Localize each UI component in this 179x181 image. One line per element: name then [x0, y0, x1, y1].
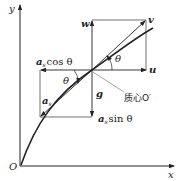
x-axis-label: x — [168, 169, 174, 180]
as-label: as — [42, 95, 52, 107]
center-of-mass-label: 质心O′ — [124, 92, 151, 103]
g-label: g — [96, 88, 103, 99]
as-sin-label: assin θ — [98, 113, 133, 125]
theta-upper-label: θ — [115, 53, 121, 64]
origin-label: O — [9, 161, 17, 172]
diagram-canvas: y x O w v u g θ θ ascos θ as assin θ 质心O… — [0, 0, 179, 181]
w-label: w — [81, 18, 90, 29]
v-label: v — [148, 14, 154, 25]
u-label: u — [149, 64, 156, 75]
y-axis-label: y — [8, 3, 15, 14]
theta-lower-label: θ — [63, 75, 69, 86]
as-cos-label: ascos θ — [36, 56, 73, 68]
